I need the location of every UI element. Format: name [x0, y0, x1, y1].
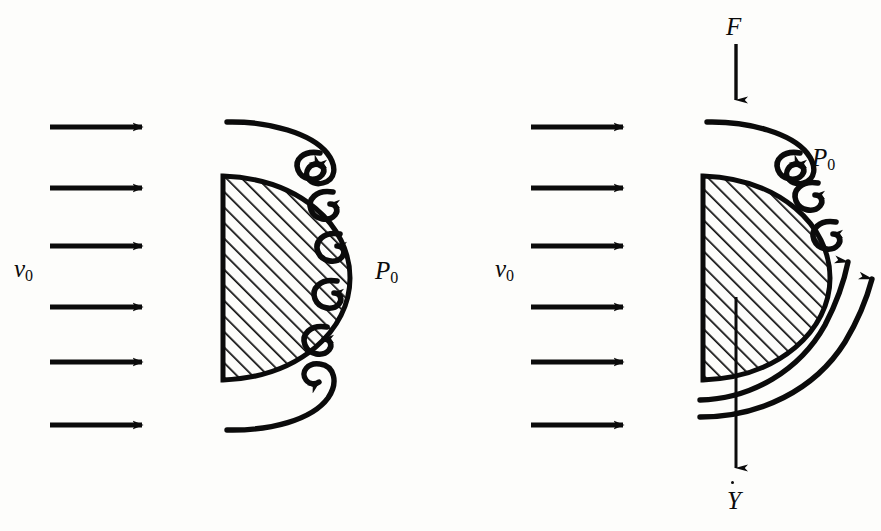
right-v0-subscript: 0 [506, 267, 514, 284]
left-panel [50, 122, 350, 430]
right-p0-subscript: 0 [827, 156, 835, 173]
left-inflow-label-v0: v0 [14, 256, 33, 284]
right-p0-base: P [812, 144, 827, 171]
diagram-svg [0, 0, 881, 531]
figure-canvas: v0 P0 v0 P0 F Y [0, 0, 881, 531]
ydot-base: Y [727, 488, 741, 513]
right-inflow-arrows [531, 127, 623, 425]
left-inflow-arrows [50, 127, 142, 425]
right-pressure-label-p0: P0 [812, 145, 835, 173]
right-v0-base: v [495, 255, 506, 282]
vortex-curl [795, 182, 822, 210]
left-p0-subscript: 0 [390, 269, 398, 286]
velocity-label-Ydot: Y [727, 488, 741, 513]
left-p0-base: P [375, 257, 390, 284]
left-v0-base: v [14, 255, 25, 282]
left-pressure-label-p0: P0 [375, 258, 398, 286]
right-inflow-label-v0: v0 [495, 256, 514, 284]
left-v0-subscript: 0 [25, 267, 33, 284]
right-panel [531, 44, 872, 468]
force-label-F: F [726, 14, 741, 39]
